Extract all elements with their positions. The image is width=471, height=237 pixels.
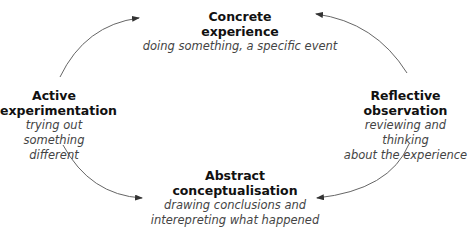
- node-title: Active: [0, 88, 108, 103]
- node-reflective-observation: Reflective observation reviewing and thi…: [340, 88, 471, 163]
- node-abstract-conceptualisation: Abstract conceptualisation drawing concl…: [140, 168, 330, 228]
- node-active-experimentation: Active experimentation trying out someth…: [0, 88, 108, 163]
- node-title: Concrete: [130, 9, 350, 24]
- node-title: observation: [340, 103, 471, 118]
- arrow-active-to-concrete: [60, 18, 139, 77]
- node-title: Reflective: [340, 88, 471, 103]
- node-description: interepreting what happened: [140, 213, 330, 228]
- experiential-learning-cycle-diagram: Concrete experience doing something, a s…: [0, 0, 471, 237]
- node-title: conceptualisation: [140, 183, 330, 198]
- node-description: something different: [0, 133, 108, 163]
- node-title: Abstract: [140, 168, 330, 183]
- node-concrete-experience: Concrete experience doing something, a s…: [130, 9, 350, 54]
- node-description: trying out: [0, 118, 108, 133]
- node-description: doing something, a specific event: [130, 39, 350, 54]
- node-description: reviewing and thinking: [340, 118, 471, 148]
- node-description: about the experience: [340, 148, 471, 163]
- node-description: drawing conclusions and: [140, 198, 330, 213]
- node-title: experience: [130, 24, 350, 39]
- node-title: experimentation: [0, 103, 108, 118]
